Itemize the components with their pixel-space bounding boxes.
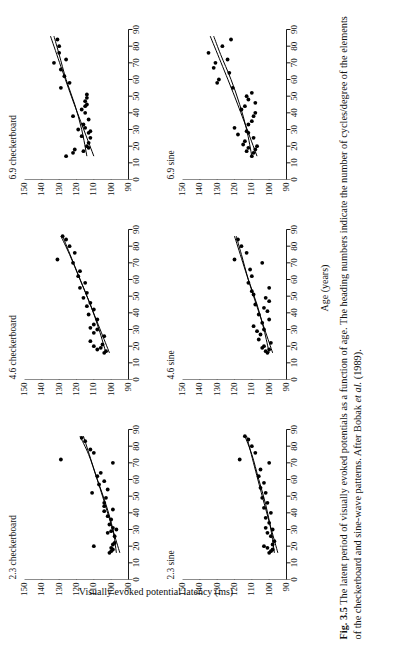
data-point xyxy=(263,490,267,494)
x-tick-label: 60 xyxy=(131,75,140,84)
data-point xyxy=(97,482,101,486)
data-point xyxy=(217,77,221,81)
x-tick-label: 40 xyxy=(131,108,140,117)
axis-lines xyxy=(182,29,286,179)
data-point xyxy=(78,285,82,289)
data-point xyxy=(267,285,271,289)
regression-curve-linear xyxy=(210,36,257,156)
data-point xyxy=(88,339,92,343)
axes xyxy=(24,415,142,579)
y-tick-label: 110 xyxy=(89,182,98,195)
data-point xyxy=(243,104,247,108)
data-point xyxy=(263,515,267,519)
data-point xyxy=(262,480,266,484)
figure-caption: Fig. 3.5 The latent period of visually e… xyxy=(336,7,406,639)
x-tick-label: 80 xyxy=(289,241,298,250)
x-tick-label: 20 xyxy=(289,341,298,350)
y-tick-label: 130 xyxy=(212,182,221,196)
y-tick-label: 150 xyxy=(178,182,187,196)
y-tick-label: 90 xyxy=(124,182,133,191)
data-point xyxy=(59,85,63,89)
data-point xyxy=(111,525,115,529)
panel-4-6-checkerboard: 4.6 checkerboard901001101201301401500102… xyxy=(8,223,150,409)
panel-2-3-checkerboard: 2.3 checkerboard901001101201301401500102… xyxy=(8,423,150,609)
x-tick-label: 20 xyxy=(131,541,140,550)
data-point xyxy=(88,135,92,139)
x-tick-label: 60 xyxy=(131,475,140,484)
x-tick-label: 30 xyxy=(289,525,298,534)
axes xyxy=(182,415,300,579)
y-tick-label: 90 xyxy=(282,182,291,191)
axes xyxy=(182,15,300,179)
x-tick-label: 30 xyxy=(131,125,140,134)
panel-title: 4.6 sine xyxy=(165,350,175,379)
axis-lines xyxy=(24,429,128,579)
data-point xyxy=(105,530,109,534)
data-point xyxy=(269,510,273,514)
data-point xyxy=(236,132,240,136)
x-tick-label: 50 xyxy=(289,91,298,100)
data-point xyxy=(111,507,115,511)
x-tick-label: 0 xyxy=(131,177,140,182)
data-point xyxy=(95,347,99,351)
x-tick-label: 80 xyxy=(131,41,140,50)
data-point xyxy=(248,267,252,271)
data-point xyxy=(102,479,106,483)
y-tick-label: 100 xyxy=(106,382,115,396)
y-tick-label: 130 xyxy=(54,182,63,196)
data-point xyxy=(249,119,253,123)
data-point xyxy=(67,244,71,248)
data-point xyxy=(256,337,260,341)
data-point xyxy=(91,344,95,348)
data-point xyxy=(258,467,262,471)
data-point xyxy=(262,544,266,548)
data-point xyxy=(72,250,76,254)
panel-6-9-sine: 6.9 sine90100110120130140150010203040506… xyxy=(166,23,308,209)
data-point xyxy=(98,470,102,474)
x-tick-label: 80 xyxy=(131,241,140,250)
data-point xyxy=(81,295,85,299)
data-point xyxy=(88,447,92,451)
data-point xyxy=(78,269,82,273)
y-tick-label: 140 xyxy=(195,182,204,196)
axes xyxy=(24,215,142,379)
x-tick-label: 70 xyxy=(131,58,140,67)
data-point xyxy=(91,330,95,334)
x-tick-label: 60 xyxy=(289,275,298,284)
data-point xyxy=(249,274,253,278)
data-point xyxy=(85,92,89,96)
x-tick-label: 0 xyxy=(289,577,298,582)
data-point xyxy=(251,135,255,139)
y-tick-label: 110 xyxy=(247,382,256,395)
x-tick-label: 30 xyxy=(131,325,140,334)
y-tick-label: 150 xyxy=(20,182,29,196)
data-point xyxy=(59,457,63,461)
data-point xyxy=(249,444,253,448)
data-point xyxy=(86,312,90,316)
data-point xyxy=(85,304,89,308)
data-point xyxy=(262,327,266,331)
data-point xyxy=(232,257,236,261)
data-point xyxy=(260,320,264,324)
figure-number: Fig. 3.5 xyxy=(337,607,348,639)
y-tick-label: 140 xyxy=(37,382,46,396)
axis-lines xyxy=(182,229,286,379)
y-tick-label: 90 xyxy=(124,382,133,391)
y-tick-label: 130 xyxy=(54,382,63,396)
data-point xyxy=(79,435,83,439)
y-tick-label: 150 xyxy=(178,382,187,396)
data-point xyxy=(232,125,236,129)
x-tick-label: 70 xyxy=(289,458,298,467)
x-tick-label: 80 xyxy=(289,41,298,50)
y-tick-label: 100 xyxy=(106,182,115,196)
data-point xyxy=(71,260,75,264)
data-point xyxy=(86,140,90,144)
x-tick-label: 10 xyxy=(131,358,140,367)
regression-curve-quadratic xyxy=(244,436,273,553)
x-tick-label: 50 xyxy=(131,91,140,100)
data-point xyxy=(72,147,76,151)
x-tick-label: 90 xyxy=(289,225,298,234)
x-tick-label: 70 xyxy=(289,58,298,67)
regression-curve-linear xyxy=(246,436,277,553)
data-point xyxy=(255,329,259,333)
